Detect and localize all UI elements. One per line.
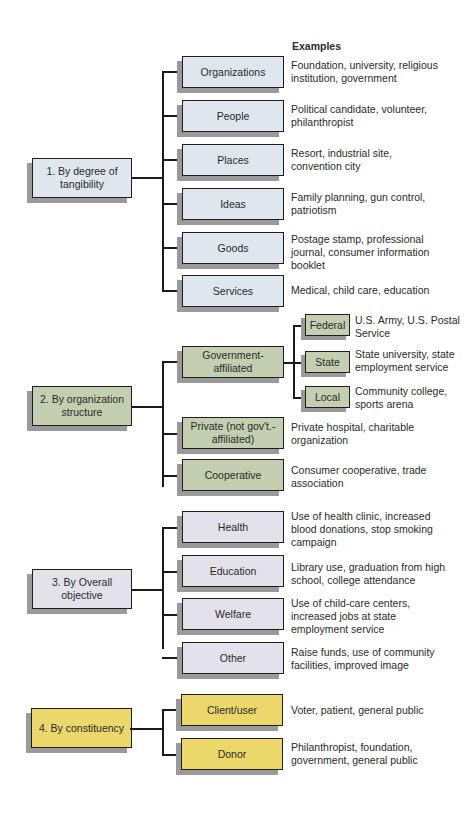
- example-private: Private hospital, charitable organizatio…: [291, 421, 441, 447]
- example-other: Raise funds, use of community facilities…: [291, 646, 463, 672]
- item-government-affiliated: Government-affiliated: [182, 346, 284, 378]
- example-organizations: Foundation, university, religious instit…: [291, 59, 463, 85]
- category-tangibility: 1. By degree of tangibility: [32, 158, 132, 198]
- item-education: Education: [182, 555, 284, 587]
- item-goods: Goods: [182, 232, 284, 264]
- examples-header: Examples: [292, 40, 341, 52]
- example-state: State university, state employment servi…: [355, 348, 465, 374]
- example-cooperative: Consumer cooperative, trade association: [291, 464, 441, 490]
- item-ideas: Ideas: [182, 188, 284, 220]
- item-donor: Donor: [181, 738, 283, 770]
- example-local: Community college, sports arena: [355, 385, 465, 411]
- item-services: Services: [182, 275, 284, 307]
- item-local: Local: [305, 386, 350, 408]
- item-state: State: [305, 351, 350, 373]
- example-education: Library use, graduation from high school…: [291, 561, 463, 587]
- category-overall-objective: 3. By Overall objective: [32, 569, 132, 609]
- item-private: Private (not gov't.-affiliated): [182, 417, 284, 449]
- item-other: Other: [182, 642, 284, 674]
- item-federal: Federal: [305, 314, 350, 336]
- example-welfare: Use of child-care centers, increased job…: [291, 597, 441, 636]
- example-places: Resort, industrial site, convention city: [291, 147, 411, 173]
- category-constituency: 4. By constituency: [31, 708, 132, 748]
- example-health: Use of health clinic, increased blood do…: [291, 510, 441, 549]
- item-client-user: Client/user: [181, 694, 283, 726]
- example-services: Medical, child care, education: [291, 284, 463, 297]
- item-people: People: [182, 100, 284, 132]
- category-organization-structure: 2. By organization structure: [32, 386, 132, 426]
- item-places: Places: [182, 144, 284, 176]
- example-client-user: Voter, patient, general public: [291, 704, 463, 717]
- item-welfare: Welfare: [182, 598, 284, 630]
- example-federal: U.S. Army, U.S. Postal Service: [355, 314, 465, 340]
- example-people: Political candidate, volunteer, philanth…: [291, 103, 441, 129]
- example-ideas: Family planning, gun control, patriotism: [291, 191, 431, 217]
- item-organizations: Organizations: [182, 56, 284, 88]
- item-health: Health: [182, 511, 284, 543]
- example-goods: Postage stamp, professional journal, con…: [291, 233, 441, 272]
- example-donor: Philanthropist, foundation, government, …: [291, 741, 441, 767]
- item-cooperative: Cooperative: [182, 459, 284, 491]
